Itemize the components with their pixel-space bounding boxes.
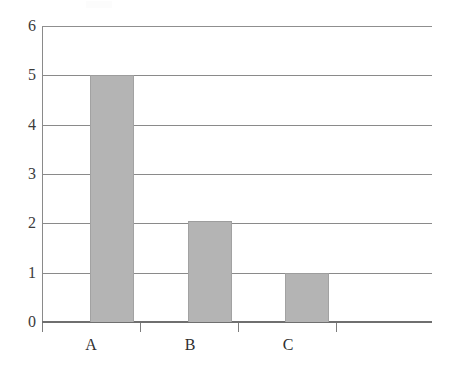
bar-a <box>90 75 134 322</box>
y-tick-label-6: 6 <box>2 18 36 34</box>
y-tick-label-0: 0 <box>2 314 36 330</box>
x-tick-label-b: B <box>160 336 220 354</box>
x-tick-2 <box>238 323 239 332</box>
y-tick-label-3: 3 <box>2 166 36 182</box>
bar-b <box>188 221 232 322</box>
y-tick-label-2: 2 <box>2 215 36 231</box>
scan-artifact <box>86 1 112 8</box>
y-axis-tick-labels: 6 5 4 3 2 1 0 <box>0 26 36 322</box>
plot-area <box>42 26 432 322</box>
bar-c <box>285 273 329 322</box>
x-tick-label-c: C <box>258 336 318 354</box>
y-tick-label-1: 1 <box>2 265 36 281</box>
bar-chart-figure: 6 5 4 3 2 1 0 A B C <box>0 0 449 368</box>
x-tick-0 <box>42 323 43 332</box>
y-tick-label-4: 4 <box>2 117 36 133</box>
x-axis-line <box>42 322 432 323</box>
y-tick-label-5: 5 <box>2 67 36 83</box>
x-tick-label-a: A <box>61 336 121 354</box>
x-tick-1 <box>140 323 141 332</box>
x-tick-3 <box>336 323 337 332</box>
gridline-6 <box>42 26 432 27</box>
